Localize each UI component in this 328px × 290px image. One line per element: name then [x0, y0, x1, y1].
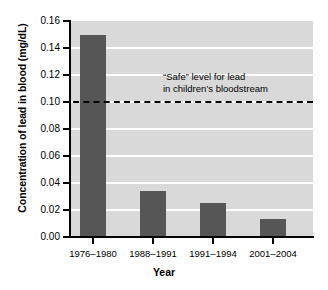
bar-2001-2004 [260, 219, 286, 237]
y-tick-mark [63, 128, 70, 130]
gridline [71, 155, 313, 157]
y-tick-mark [63, 236, 70, 238]
y-tick-label-008: 0.08 [0, 123, 60, 134]
y-tick-label-014: 0.14 [0, 42, 60, 53]
x-tick-mark [152, 237, 154, 244]
gridline [71, 182, 313, 184]
y-tick-mark [63, 182, 70, 184]
bar-1991-1994 [200, 203, 226, 237]
y-tick-label-006: 0.06 [0, 150, 60, 161]
gridline [71, 209, 313, 211]
y-tick-mark [63, 155, 70, 157]
y-tick-label-010: 0.10 [0, 96, 60, 107]
safe-level-annotation: “Safe” level for lead in children’s bloo… [163, 71, 268, 95]
x-tick-mark [212, 237, 214, 244]
y-tick-mark [63, 209, 70, 211]
safe-level-annotation-line-2: in children’s bloodstream [163, 83, 268, 95]
safe-level-annotation-line-1: “Safe” level for lead [163, 71, 268, 83]
y-tick-label-004: 0.04 [0, 177, 60, 188]
y-tick-label-012: 0.12 [0, 69, 60, 80]
lead-concentration-bar-chart: Concentration of lead in blood (mg/dL) 0… [0, 0, 328, 290]
y-tick-mark [63, 74, 70, 76]
x-axis-line [69, 236, 314, 238]
y-tick-mark [63, 20, 70, 22]
safe-level-dashed-line [63, 101, 313, 103]
y-tick-label-002: 0.02 [0, 204, 60, 215]
x-tick-mark [92, 237, 94, 244]
plot-area [71, 21, 313, 237]
gridline [71, 47, 313, 49]
gridline [71, 128, 313, 130]
x-tick-label-2001-2004: 2001–2004 [233, 248, 313, 259]
y-tick-label-016: 0.16 [0, 15, 60, 26]
y-axis-title: Concentration of lead in blood (mg/dL) [16, 0, 28, 238]
x-tick-mark [272, 237, 274, 244]
x-axis-title: Year [0, 266, 328, 278]
y-tick-mark [63, 47, 70, 49]
bar-1976-1980 [80, 35, 106, 237]
bar-1988-1991 [140, 191, 166, 237]
y-tick-label-000: 0.00 [0, 231, 60, 242]
